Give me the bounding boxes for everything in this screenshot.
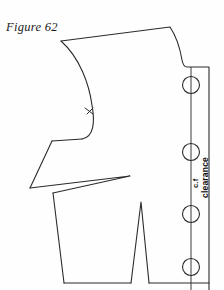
hem-dart-path xyxy=(131,202,149,283)
armhole-curve-path xyxy=(61,41,93,139)
figure-root: Figure 62 c.f clearance xyxy=(0,0,224,290)
side-seam-lower-path xyxy=(53,193,64,283)
center-front-label: c.f xyxy=(191,179,200,188)
waist-notch-path xyxy=(30,176,130,193)
pattern-drawing xyxy=(0,0,224,290)
clearance-label: clearance xyxy=(200,157,210,198)
armhole-notch-icon xyxy=(85,108,93,114)
side-seam-upper-path xyxy=(30,141,52,188)
underarm-shelf-path xyxy=(52,139,82,141)
